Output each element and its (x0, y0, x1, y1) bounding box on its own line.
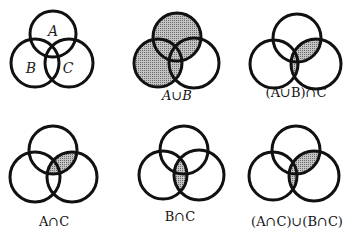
venn-diagram-union-ab-intersect-c (250, 14, 341, 89)
venn-diagram-intersect-ac (10, 126, 97, 202)
caption-intersect-ac: A∩C (39, 214, 69, 229)
venn-diagram-union-ac-bc (249, 126, 339, 201)
caption-union-ac-bc: (A∩C)∪(B∩C) (251, 214, 343, 229)
caption-union-ab-intersect-c: (A∪B)∩C (266, 85, 327, 100)
venn-diagram-union-ab (134, 13, 219, 88)
region-label-c: C (63, 60, 74, 76)
caption-union-ab: A∪B (162, 88, 192, 103)
region-label-a: A (48, 23, 58, 39)
caption-intersect-bc: B∩C (165, 209, 195, 224)
venn-diagram-intersect-bc (139, 126, 224, 200)
region-label-b: B (26, 60, 36, 76)
